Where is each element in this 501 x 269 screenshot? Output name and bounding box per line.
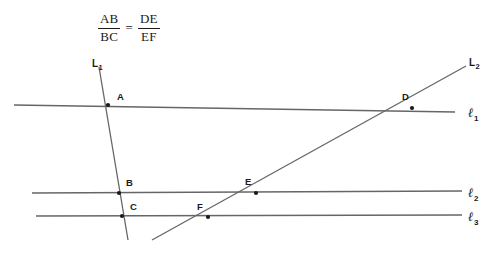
line-label-ell2: ℓ2 <box>468 185 479 203</box>
point-label-A: A <box>117 91 124 102</box>
intersection-dot-D <box>410 106 414 110</box>
intersection-dot-E <box>254 191 258 195</box>
point-label-B: B <box>126 177 133 188</box>
line-label-L2-subscript: 2 <box>476 62 480 71</box>
point-label-C: C <box>130 201 137 212</box>
intersection-dot-A <box>106 103 110 107</box>
line-label-ell1: ℓ1 <box>468 105 479 123</box>
line-label-ell3-subscript: 3 <box>474 218 478 227</box>
line-label-ell1-text: ℓ <box>468 105 474 120</box>
line-label-L1: L1 <box>92 58 103 72</box>
intersection-dot-C <box>120 214 124 218</box>
point-label-D: D <box>402 91 409 102</box>
parallel-line-ell3 <box>36 215 462 216</box>
line-label-ell1-subscript: 1 <box>474 114 478 123</box>
line-label-L1-text: L <box>92 58 98 69</box>
line-label-ell2-text: ℓ <box>468 185 474 200</box>
line-label-L2: L2 <box>469 57 480 71</box>
line-label-ell3: ℓ3 <box>468 209 479 227</box>
transversal-lines-group <box>99 66 466 240</box>
line-label-L2-text: L <box>469 57 475 68</box>
parallel-lines-group <box>14 105 462 216</box>
geometry-canvas <box>0 0 501 269</box>
intersection-dot-F <box>206 215 210 219</box>
intersection-dot-B <box>117 191 121 195</box>
line-label-ell2-subscript: 2 <box>474 194 478 203</box>
line-label-L1-subscript: 1 <box>99 63 103 72</box>
transversal-line-L2 <box>152 66 466 240</box>
point-label-F: F <box>197 201 203 212</box>
geometry-figure: AB BC = DE EF ABCDEF L1L2ℓ1ℓ2ℓ3 <box>0 0 501 269</box>
point-label-E: E <box>245 176 251 187</box>
line-label-ell3-text: ℓ <box>468 209 474 224</box>
parallel-line-ell2 <box>32 191 462 193</box>
